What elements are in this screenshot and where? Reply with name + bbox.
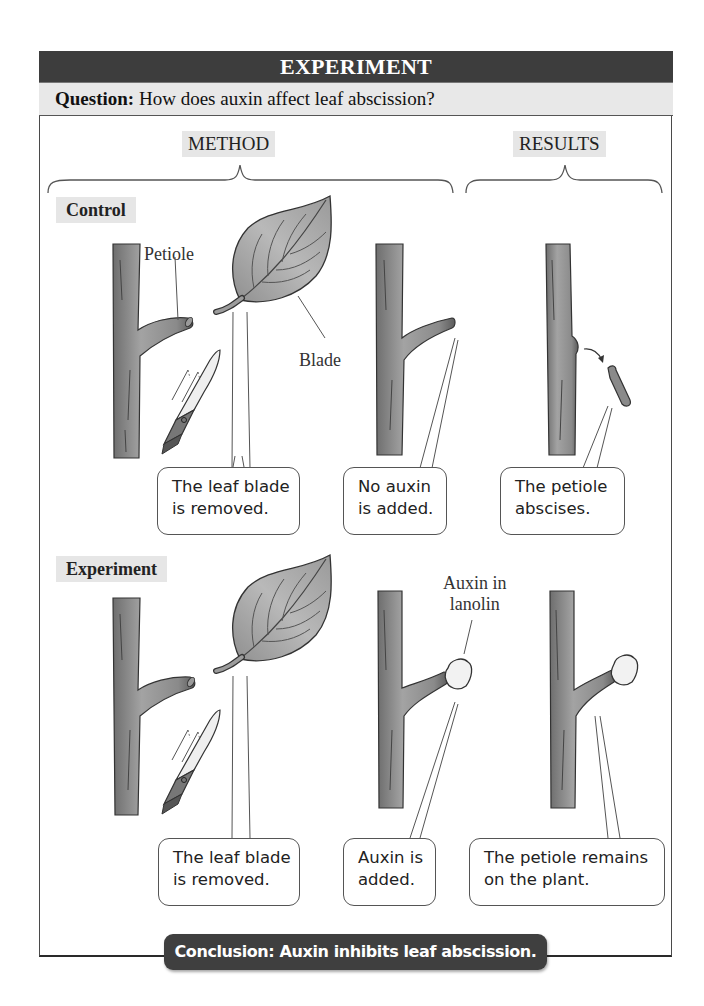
control-knife-icon	[162, 350, 220, 454]
experiment-callout-auxin-added: Auxin is added.	[343, 838, 436, 906]
control-abscised-stem-icon	[546, 244, 578, 455]
results-brace-icon	[466, 165, 662, 193]
control-no-auxin-stem-icon	[376, 244, 455, 455]
experiment-leaf-icon	[216, 555, 331, 671]
experiment-knife-icon	[162, 710, 220, 814]
auxin-in-lanolin-annotation: Auxin in lanolin	[443, 573, 507, 615]
falling-petiole-icon	[608, 366, 630, 406]
experiment-callout-petiole-remains: The petiole remains on the plant.	[469, 838, 665, 906]
blade-annotation: Blade	[299, 350, 341, 371]
control-callout-petiole-abscises: The petiole abscises.	[500, 467, 625, 535]
petiole-annotation: Petiole	[144, 244, 194, 265]
lanolin-blob-icon-2	[611, 655, 637, 685]
control-callout-no-auxin: No auxin is added.	[343, 467, 447, 535]
method-brace-icon	[48, 165, 453, 193]
experiment-retained-stem-icon	[550, 591, 616, 808]
experiment-callout-blade-removed: The leaf blade is removed.	[158, 838, 300, 906]
control-callout-blade-removed: The leaf blade is removed.	[157, 467, 300, 535]
lanolin-blob-icon	[445, 659, 471, 689]
conclusion-banner: Conclusion: Auxin inhibits leaf abscissi…	[164, 934, 547, 970]
control-leaf-icon	[216, 196, 331, 312]
